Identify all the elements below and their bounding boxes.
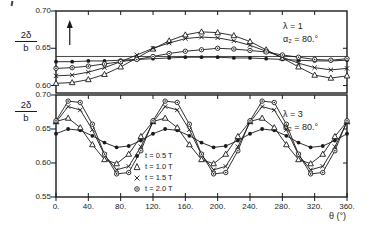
circle-dot-marker-center [346, 58, 348, 60]
circle-dot-marker-center [314, 59, 316, 61]
y-tick-label: 0.60 [24, 81, 51, 90]
alpha-annotation: α₂ = 80.° [283, 33, 318, 46]
filled-circle-marker [127, 144, 131, 148]
open-triangle-marker-icon [132, 162, 142, 172]
circle-dot-marker-center [92, 123, 94, 125]
lambda-annotation: λ = 1 [283, 20, 318, 33]
circle-dot-marker-center [152, 56, 154, 58]
filled-circle-marker [333, 139, 337, 143]
circle-dot-marker-center [217, 47, 219, 49]
filled-circle-marker [183, 55, 187, 59]
legend-label: t = 2.0 T [145, 184, 173, 193]
filled-circle-marker [200, 55, 204, 59]
circle-dot-marker-center [265, 51, 267, 53]
legend-item: t = 1.0 T [132, 161, 173, 172]
x-tick-label: 240. [235, 202, 265, 211]
filled-circle-marker [345, 132, 349, 136]
circle-dot-marker-center [120, 61, 122, 63]
x-tick-label: 320. [300, 202, 330, 211]
x-tick-label: 280. [267, 202, 297, 211]
open-triangle-marker [174, 125, 180, 130]
circle-dot-marker-center [88, 65, 90, 67]
filled-circle-marker [54, 132, 58, 136]
filled-circle-marker [90, 134, 94, 138]
circle-dot-marker-center [310, 173, 312, 175]
open-triangle-marker [344, 73, 350, 78]
circle-dot-marker-center [233, 48, 235, 50]
circle-dot-marker-center [152, 120, 154, 122]
y-axis-label-denominator: b [15, 112, 37, 123]
circle-dot-marker-center [346, 120, 348, 122]
legend-label: t = 0.5 T [145, 151, 173, 160]
circle-dot-marker-center [189, 123, 191, 125]
open-triangle-marker [312, 72, 318, 77]
circle-dot-marker-icon [132, 184, 142, 194]
filled-circle-marker [216, 55, 220, 59]
filled-circle-marker [264, 57, 268, 61]
circle-dot-marker-center [249, 120, 251, 122]
filled-circle-marker [236, 139, 240, 143]
x-tick-label: 360. [332, 202, 362, 211]
filled-circle-marker [248, 132, 252, 136]
filled-circle-marker [103, 141, 107, 145]
circle-dot-marker-center [128, 172, 130, 174]
up-arrow-head [67, 20, 73, 28]
circle-dot-marker-center [104, 63, 106, 65]
filled-circle-marker [297, 141, 301, 145]
filled-circle-marker [224, 144, 228, 148]
x-tick-label: 80. [106, 202, 136, 211]
circle-dot-marker-center [282, 54, 284, 56]
circle-dot-marker-center [330, 59, 332, 61]
x-tick-label: 120. [138, 202, 168, 211]
circle-dot-marker-center [116, 173, 118, 175]
x-cross-marker-icon [132, 173, 142, 183]
circle-dot-marker-center [322, 172, 324, 174]
lambda-annotation: λ = 3 [283, 108, 318, 121]
filled-circle-marker [139, 139, 143, 143]
y-tick-label: 0.70 [24, 6, 51, 15]
circle-dot-marker-center [237, 150, 239, 152]
open-triangle-marker [199, 29, 205, 34]
circle-dot-marker-center [298, 56, 300, 58]
y-axis-label-bottom: 2δ b [15, 100, 37, 123]
open-triangle-marker [162, 115, 168, 120]
filled-circle-marker [167, 56, 171, 60]
filled-circle-marker [54, 60, 58, 64]
circle-dot-marker-center [201, 49, 203, 51]
legend-label: t = 1.5 T [145, 173, 173, 182]
open-triangle-marker [65, 115, 71, 120]
legend: t = 0.5 T t = 1.0 T t = 1.5 T t = 2.0 T [132, 150, 173, 194]
open-triangle-marker [77, 125, 83, 130]
filled-circle-marker [260, 127, 264, 131]
y-tick-label: 0.65 [24, 43, 51, 52]
open-triangle-marker [271, 125, 277, 130]
alpha-annotation: α₂ = 80.° [283, 121, 318, 134]
circle-dot-marker-center [79, 102, 81, 104]
circle-dot-marker-center [104, 153, 106, 155]
legend-item: t = 2.0 T [132, 183, 173, 194]
filled-circle-marker [151, 132, 155, 136]
circle-dot-marker-center [273, 102, 275, 104]
filled-circle-marker [321, 144, 325, 148]
circle-dot-marker-center [249, 50, 251, 52]
y-tick-label: 0.60 [24, 158, 51, 167]
filled-circle-marker [232, 56, 236, 60]
open-triangle-marker [259, 115, 265, 120]
filled-circle-marker [200, 141, 204, 145]
x-tick-label: 200. [203, 202, 233, 211]
legend-item: t = 1.5 T [132, 172, 173, 183]
bottom-panel-annotation: λ = 3 α₂ = 80.° [283, 108, 318, 134]
filled-circle-marker [163, 127, 167, 131]
filled-circle-marker [212, 145, 216, 149]
legend-item: t = 0.5 T [132, 150, 173, 161]
filled-circle-marker [187, 134, 191, 138]
circle-dot-marker-center [67, 100, 69, 102]
circle-dot-marker-center [334, 150, 336, 152]
filled-circle-marker [115, 145, 119, 149]
circle-dot-marker-center [201, 153, 203, 155]
circle-dot-marker-center [213, 173, 215, 175]
circle-dot-marker-center [55, 68, 57, 70]
circle-dot-marker-center [261, 100, 263, 102]
filled-circle-marker-icon [132, 151, 142, 161]
circle-dot-marker-center [168, 53, 170, 55]
